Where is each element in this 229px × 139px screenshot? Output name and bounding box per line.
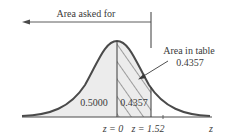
callout-value: 0.4357: [176, 57, 204, 68]
left-area-value: 0.5000: [80, 97, 108, 108]
normal-curve-diagram: Area asked for Area in table 0.4357 0.50…: [0, 0, 229, 139]
z-axis-label: z: [208, 123, 213, 134]
arrow-head-left-icon: [22, 20, 30, 25]
area-asked-label: Area asked for: [57, 8, 117, 19]
z0-label: z = 0: [102, 123, 124, 134]
callout-label: Area in table: [163, 45, 215, 56]
z152-label: z = 1.52: [130, 123, 164, 134]
middle-area-value: 0.4357: [120, 97, 148, 108]
callout-arrow: [142, 61, 168, 77]
